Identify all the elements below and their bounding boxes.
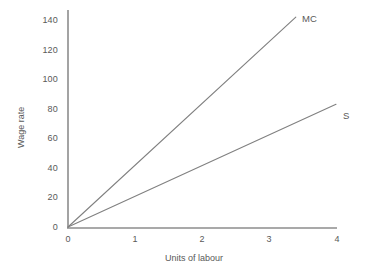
chart-container: 140 120 100 80 60 40 20 0 0 1 2 3 4 Wage… xyxy=(0,0,365,279)
y-tick-label-100: 100 xyxy=(26,74,58,84)
y-tick-label-80: 80 xyxy=(26,104,58,114)
y-tick-label-120: 120 xyxy=(26,45,58,55)
x-tick-label-3: 3 xyxy=(266,234,271,244)
series-line-mc xyxy=(68,17,296,227)
series-label-s: S xyxy=(343,110,349,121)
x-axis-title: Units of labour xyxy=(165,253,223,263)
y-tick-label-40: 40 xyxy=(26,163,58,173)
y-axis-title: Wage rate xyxy=(16,107,26,148)
y-tick-label-20: 20 xyxy=(26,192,58,202)
series-line-s xyxy=(68,104,336,227)
series-label-mc: MC xyxy=(302,13,317,24)
y-tick-label-0: 0 xyxy=(26,222,58,232)
y-tick-label-60: 60 xyxy=(26,133,58,143)
x-tick-label-4: 4 xyxy=(334,234,339,244)
x-tick-label-0: 0 xyxy=(65,234,70,244)
y-tick-label-140: 140 xyxy=(26,15,58,25)
x-tick-label-2: 2 xyxy=(199,234,204,244)
x-tick-label-1: 1 xyxy=(132,234,137,244)
